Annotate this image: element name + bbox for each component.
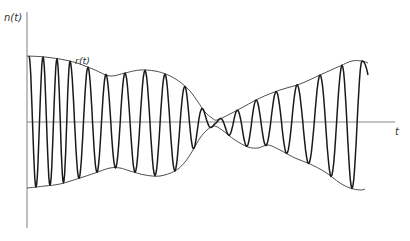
envelope-label: r(t) xyxy=(75,56,90,66)
x-axis-label: t xyxy=(395,127,399,137)
signal-diagram xyxy=(0,0,410,241)
y-axis-label: n(t) xyxy=(4,13,22,23)
